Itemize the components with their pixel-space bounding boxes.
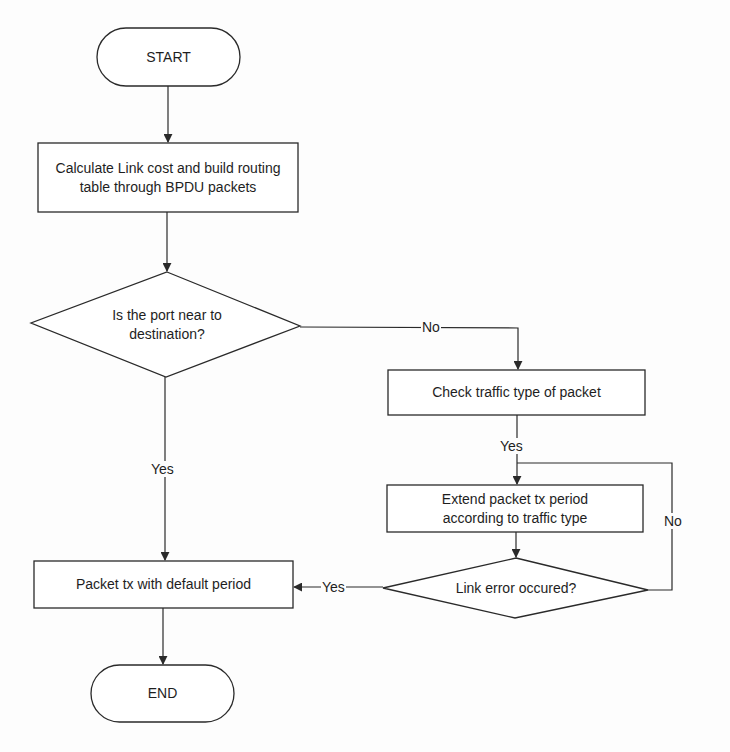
- end-label: END: [91, 665, 234, 722]
- start-label: START: [97, 28, 240, 86]
- link-error-label: Link error occured?: [430, 576, 602, 600]
- extend-period-label: Extend packet tx period according to tra…: [410, 485, 620, 532]
- check-yes-edge-label: Yes: [499, 438, 524, 454]
- check-traffic-label: Check traffic type of packet: [388, 370, 645, 415]
- near-no-edge-label: No: [421, 319, 441, 335]
- calc-label: Calculate Link cost and build routing ta…: [52, 143, 284, 212]
- default-period-label: Packet tx with default period: [34, 561, 293, 608]
- linkerr-yes-edge-label: Yes: [321, 579, 346, 595]
- near-destination-label: Is the port near to destination?: [96, 300, 238, 350]
- near-yes-edge-label: Yes: [150, 461, 175, 477]
- linkerr-no-edge-label: No: [663, 513, 683, 529]
- edge-near-no-to-check: [300, 327, 518, 369]
